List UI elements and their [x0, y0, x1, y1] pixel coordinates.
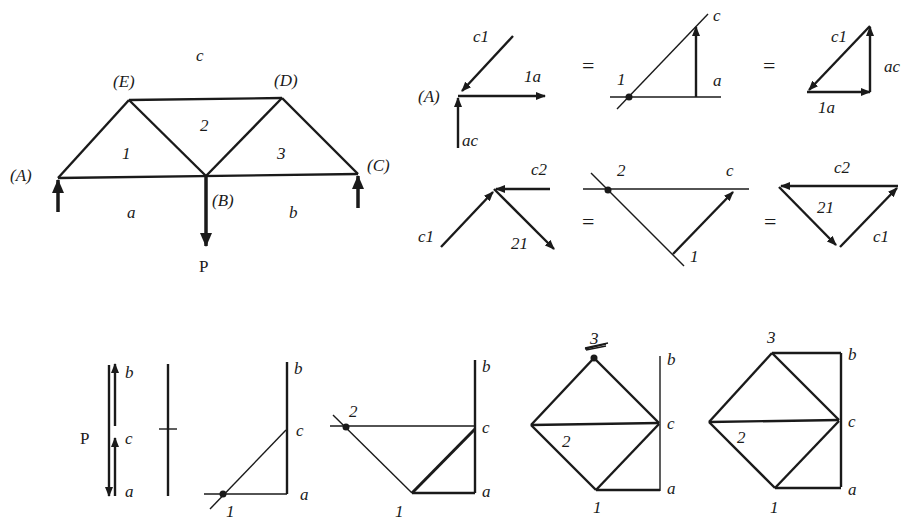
force-label-21: 21: [511, 234, 528, 253]
point-label-2: 2: [349, 402, 358, 421]
force-label-1a: 1a: [524, 67, 541, 86]
force-label-ac: ac: [462, 131, 479, 150]
joint-label-c: (C): [367, 156, 390, 175]
point-label-c: c: [848, 412, 856, 431]
equals-sign: =: [582, 209, 594, 234]
force-polygon-step-4: b c a 1 2 3: [531, 329, 676, 517]
point-label-a: a: [667, 479, 676, 498]
force-label-c2: c2: [834, 158, 851, 177]
region-label-1: 1: [122, 144, 131, 163]
force-label-c1: c1: [418, 227, 434, 246]
point-label-a: a: [713, 71, 722, 90]
joint-e-force-triangle: c2 21 c1: [779, 158, 898, 247]
joint-label-d: (D): [274, 71, 298, 90]
force-label-c1: c1: [473, 27, 489, 46]
region-label-c: c: [196, 46, 204, 65]
joint-a-construction: 1 c a: [610, 6, 722, 109]
load-line-plain: [159, 364, 177, 496]
point-label-b: b: [125, 363, 134, 382]
region-label-3: 3: [276, 144, 286, 163]
point-label-a: a: [300, 485, 309, 504]
point-label-c: c: [482, 418, 490, 437]
point-label-1: 1: [690, 247, 699, 266]
point-label-a: a: [848, 480, 857, 499]
equals-sign: =: [582, 53, 594, 78]
point-label-c: c: [713, 6, 721, 25]
point-label-b: b: [294, 359, 303, 378]
point-label-3: 3: [589, 329, 599, 348]
point-label-1: 1: [593, 498, 602, 517]
point-label-b: b: [667, 350, 676, 369]
truss-diagram: (A) (B) (C) (D) (E) c a b 1 2 3 P: [10, 46, 390, 276]
joint-label-e: (E): [113, 72, 135, 91]
force-label-1a: 1a: [818, 98, 835, 117]
point-label-1: 1: [226, 502, 235, 521]
joint-a-label: (A): [418, 87, 440, 106]
point-label-2: 2: [617, 161, 626, 180]
force-polygon-step-2: b c a 1: [204, 359, 309, 521]
force-label-c2: c2: [531, 160, 548, 179]
force-label-21: 21: [817, 198, 834, 217]
point-label-1: 1: [617, 70, 626, 89]
point-label-1: 1: [395, 502, 404, 521]
point-label-b: b: [482, 357, 491, 376]
force-label-c1: c1: [831, 27, 847, 46]
point-label-c: c: [296, 421, 304, 440]
force-polygon-step-5: b c a 1 2 3: [709, 328, 857, 517]
load-label: P: [199, 257, 208, 276]
force-label-c1: c1: [873, 227, 889, 246]
load-line-step: P b c a: [80, 363, 134, 501]
point-label-3: 3: [766, 328, 776, 347]
force-polygon-sequence: P b c a b c a 1 b: [80, 328, 857, 521]
joint-label-b: (B): [212, 191, 234, 210]
force-polygon-step-3: b c a 1 2: [330, 357, 491, 521]
point-label-c: c: [125, 429, 133, 448]
point-label-a: a: [125, 482, 134, 501]
point-label-a: a: [482, 482, 491, 501]
joint-a-force-triangle: c1 ac 1a: [807, 26, 901, 117]
joint-e-construction: 2 c 1: [583, 161, 749, 266]
equals-sign: =: [763, 53, 775, 78]
equals-sign: =: [764, 209, 776, 234]
joint-e-analysis: c2 c1 21 = 2 c 1 = c2 21 c1: [418, 158, 898, 266]
truss-members: [58, 98, 358, 178]
region-label-b: b: [289, 203, 298, 222]
point-label-c: c: [726, 161, 734, 180]
load-label: P: [80, 429, 89, 448]
point-label-c: c: [667, 414, 675, 433]
point-label-b: b: [848, 345, 857, 364]
point-label-1: 1: [770, 498, 779, 517]
force-label-ac: ac: [884, 57, 901, 76]
joint-e-free-body: c2 c1 21: [418, 160, 554, 253]
point-label-2: 2: [562, 432, 571, 451]
region-label-2: 2: [200, 116, 209, 135]
joint-a-analysis: c1 1a ac (A) = 1 c a = c1 ac 1a: [418, 6, 901, 150]
point-label-2: 2: [737, 428, 746, 447]
graphic-statics-figure: (A) (B) (C) (D) (E) c a b 1 2 3 P c1 1a …: [0, 0, 906, 527]
joint-a-free-body: c1 1a ac (A): [418, 27, 545, 150]
region-label-a: a: [127, 203, 136, 222]
joint-label-a: (A): [10, 166, 32, 185]
